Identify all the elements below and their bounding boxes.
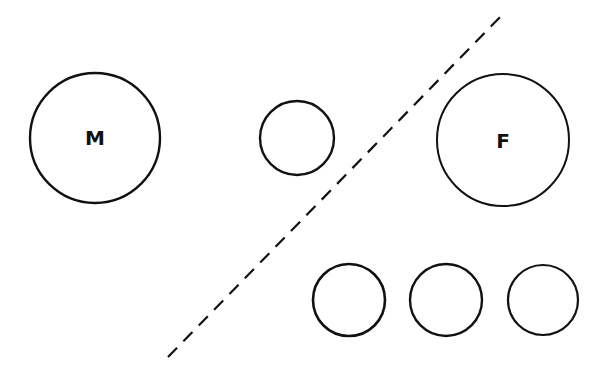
node-f: F — [437, 74, 569, 206]
node-small-left — [260, 101, 334, 175]
node-m: M — [30, 73, 160, 203]
node-bottom-3-circle — [508, 265, 578, 335]
node-bottom-3 — [508, 265, 578, 335]
node-f-label: F — [496, 129, 510, 153]
node-bottom-2 — [410, 264, 482, 336]
diagram-canvas: M F — [0, 0, 605, 381]
node-bottom-2-circle — [410, 264, 482, 336]
dashed-divider-line — [168, 15, 502, 357]
node-m-label: M — [85, 126, 105, 150]
node-bottom-1 — [313, 264, 385, 336]
node-small-left-circle — [260, 101, 334, 175]
node-bottom-1-circle — [313, 264, 385, 336]
